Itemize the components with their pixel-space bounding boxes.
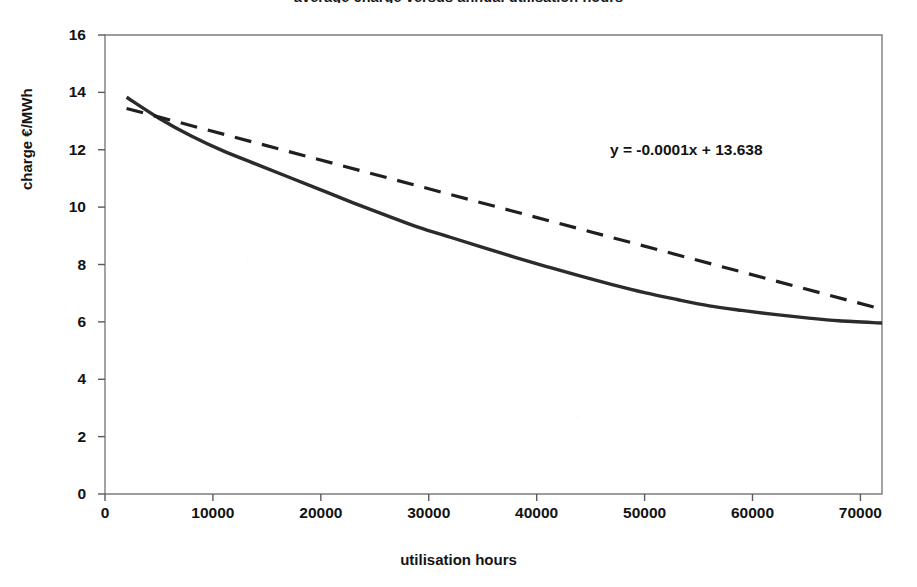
chart-container: average charge versus annual utilisation… xyxy=(0,0,917,587)
plot-area xyxy=(0,0,917,587)
trendline-series xyxy=(127,108,882,309)
axis-ticks xyxy=(98,35,860,501)
series-layer xyxy=(127,97,882,323)
axis-frame xyxy=(105,35,882,494)
charge-curve-series xyxy=(127,97,882,323)
trendline-equation-annotation: y = -0.0001x + 13.638 xyxy=(610,141,763,159)
